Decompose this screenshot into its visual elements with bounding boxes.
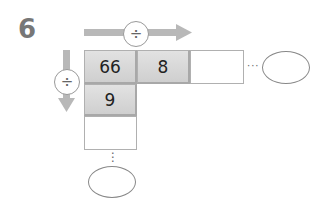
horizontal-dots: ··· [247, 60, 260, 71]
answer-oval-bottom[interactable] [88, 166, 136, 198]
cell-r1c3-answer[interactable] [190, 50, 244, 84]
cell-r1c2: 8 [137, 50, 190, 84]
vertical-dots: ⋮ [107, 150, 120, 164]
cell-r1c1: 66 [84, 50, 137, 84]
divide-operator-vertical: ÷ [54, 69, 80, 95]
problem-number: 6 [18, 14, 36, 44]
cell-r3c1-answer[interactable] [84, 116, 137, 150]
cell-r2c1: 9 [84, 84, 137, 116]
divide-operator-horizontal: ÷ [123, 21, 149, 47]
answer-oval-right[interactable] [262, 51, 310, 84]
